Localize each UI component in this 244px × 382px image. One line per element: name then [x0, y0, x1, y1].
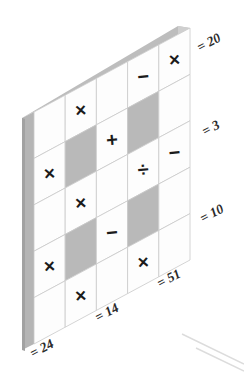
row-result-label-1: = 20 — [194, 30, 223, 55]
grid-glyph-r3-c5: − — [168, 141, 182, 164]
grid-glyph-r5-c2: × — [74, 285, 87, 307]
row-result-label-3: = 10 — [197, 201, 226, 226]
isometric-grid-board: ×−××+×÷−×−×× = 20 = 3 = 10 = 24 = 14 = 5… — [0, 0, 244, 382]
puzzle-stage: ×−××+×÷−×−×× = 20 = 3 = 10 = 24 = 14 = 5… — [0, 0, 244, 382]
grid-glyph-r1-c5: × — [168, 49, 181, 71]
grid-glyph-r2-c3: + — [105, 128, 119, 151]
grid-glyph-r4-c1: × — [43, 255, 56, 277]
grid-glyph-r3-c4: ÷ — [137, 158, 150, 181]
floor-line — [182, 334, 244, 364]
grid-cells-group — [34, 28, 190, 344]
grid-glyph-r1-c2: × — [74, 99, 87, 121]
grid-glyph-r3-c2: × — [74, 192, 87, 214]
grid-glyph-r2-c1: × — [43, 162, 56, 184]
grid-glyph-r5-c4: × — [137, 251, 150, 273]
board-left-edge-shadow — [22, 118, 25, 351]
grid-glyph-r4-c3: − — [105, 221, 119, 244]
floor-line-2 — [196, 348, 244, 371]
grid-glyph-r1-c4: − — [136, 65, 150, 88]
row-result-label-2: = 3 — [199, 117, 222, 139]
